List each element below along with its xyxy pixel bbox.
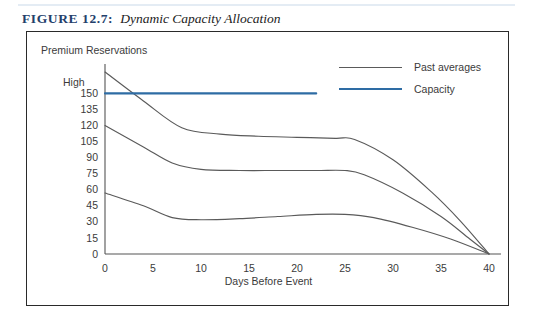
y-axis-tick-labels: 0153045607590105120135150 [80, 87, 98, 260]
y-tick-30: 30 [86, 215, 98, 227]
figure-title: Dynamic Capacity Allocation [120, 11, 280, 26]
series-line-past-averages-middle [105, 126, 489, 254]
x-tick-20: 20 [291, 262, 303, 274]
figure-top-rule [18, 4, 515, 6]
x-tick-15: 15 [243, 262, 255, 274]
y-tick-150: 150 [80, 87, 98, 99]
x-axis-title: Days Before Event [27, 275, 510, 287]
x-tick-25: 25 [339, 262, 351, 274]
x-tick-30: 30 [387, 262, 399, 274]
series-line-past-averages-upper [105, 72, 489, 254]
y-tick-75: 75 [86, 167, 98, 179]
x-tick-40: 40 [483, 262, 495, 274]
chart-container: Premium Reservations High Past averages … [26, 31, 509, 306]
y-tick-45: 45 [86, 199, 98, 211]
y-tick-0: 0 [92, 248, 98, 260]
x-tick-0: 0 [102, 262, 108, 274]
series-line-past-averages-lower [105, 193, 489, 254]
y-tick-105: 105 [80, 135, 98, 147]
y-tick-60: 60 [86, 183, 98, 195]
plot-area: 0153045607590105120135150 05101520253035… [27, 32, 510, 307]
y-tick-90: 90 [86, 151, 98, 163]
x-tick-5: 5 [150, 262, 156, 274]
x-axis-tick-labels: 0510152025303540 [102, 262, 495, 274]
x-tick-10: 10 [195, 262, 207, 274]
x-tick-35: 35 [435, 262, 447, 274]
y-tick-135: 135 [80, 103, 98, 115]
y-tick-120: 120 [80, 119, 98, 131]
figure-label: FIGURE 12.7: [22, 11, 113, 26]
data-series-group [105, 72, 489, 254]
figure-caption: FIGURE 12.7:Dynamic Capacity Allocation [22, 9, 280, 27]
y-tick-15: 15 [86, 232, 98, 244]
